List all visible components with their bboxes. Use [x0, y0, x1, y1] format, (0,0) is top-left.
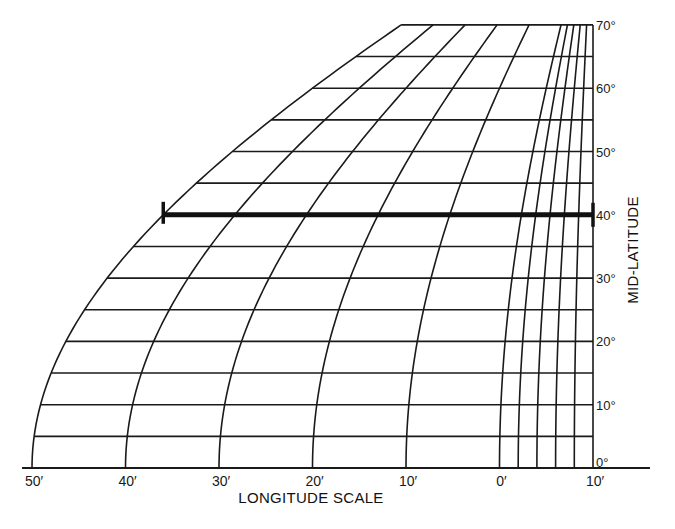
latitude-label: 60° — [596, 82, 616, 95]
latitude-label: 10° — [596, 399, 616, 412]
graticule-grid — [0, 0, 675, 529]
latitude-label: 20° — [596, 335, 616, 348]
longitude-label: 20′ — [305, 474, 323, 488]
latitude-label: 40° — [596, 209, 616, 222]
latitude-label: 0° — [596, 456, 608, 469]
longitude-label: 30′ — [212, 474, 230, 488]
latitude-label: 30° — [596, 272, 616, 285]
longitude-label: 10′ — [586, 474, 604, 488]
longitude-scale-diagram: 50′40′30′20′10′0′10′ 0°10°20°30°40°50°60… — [0, 0, 675, 529]
longitude-label: 40′ — [118, 474, 136, 488]
x-axis-title: LONGITUDE SCALE — [238, 489, 383, 506]
longitude-label: 0′ — [496, 474, 506, 488]
latitude-label: 70° — [596, 19, 616, 32]
longitude-label: 50′ — [25, 474, 43, 488]
longitude-label: 10′ — [399, 474, 417, 488]
latitude-label: 50° — [596, 146, 616, 159]
y-axis-title: MID-LATITUDE — [624, 196, 641, 304]
